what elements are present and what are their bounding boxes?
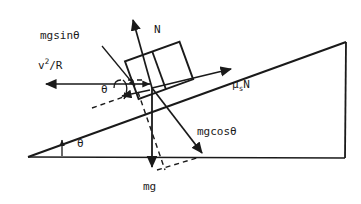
label-mu-tail: N xyxy=(243,78,250,91)
label-weight: mg xyxy=(143,181,156,192)
label-v-base: v xyxy=(38,59,45,72)
force-angle-marker xyxy=(114,80,127,99)
vector-friction xyxy=(152,69,231,88)
label-normal-force: N xyxy=(154,24,161,35)
label-mgcos-theta: mgcosθ xyxy=(197,126,237,137)
vector-normal-force xyxy=(133,20,152,88)
label-theta-force: θ xyxy=(101,84,108,95)
label-theta-incline: θ xyxy=(77,138,84,149)
incline-wedge xyxy=(28,42,346,158)
label-mgsin-theta: mgsinθ xyxy=(40,30,80,41)
physics-diagram: mgsinθ v2/R N μsN mgcosθ mg θ θ xyxy=(0,0,361,204)
label-friction-force: μsN xyxy=(232,79,250,90)
label-v-tail: /R xyxy=(49,59,62,72)
label-v-squared-over-r: v2/R xyxy=(38,60,62,71)
label-mu-base: μ xyxy=(232,78,239,91)
block xyxy=(125,42,193,99)
